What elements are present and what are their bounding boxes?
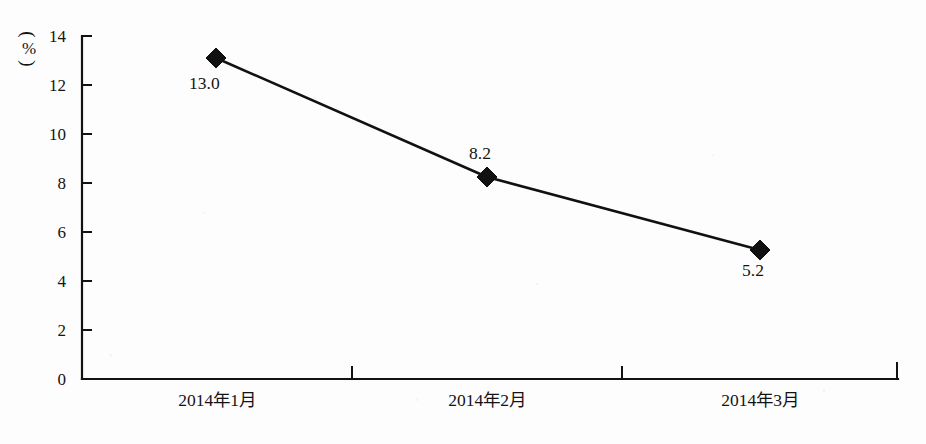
data-point-marker-1 [206, 48, 226, 68]
data-point-label-3: 5.2 [742, 262, 764, 280]
plot-area [0, 0, 926, 444]
chart-container: ( % ) 14 12 10 8 6 4 2 0 13.0 8.2 5 [0, 0, 926, 444]
data-point-label-2: 8.2 [469, 145, 491, 163]
x-tick-label-3: 2014年3月 [690, 392, 830, 410]
data-point-marker-2 [477, 167, 497, 187]
x-tick-label-1: 2014年1月 [147, 392, 287, 410]
data-point-marker-3 [750, 240, 770, 260]
data-point-label-1: 13.0 [189, 75, 220, 93]
x-tick-label-2: 2014年2月 [417, 392, 557, 410]
